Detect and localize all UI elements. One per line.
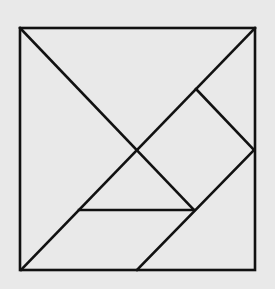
tangram-lines	[20, 28, 255, 270]
tangram-diagram	[0, 0, 275, 289]
square-right-edge	[196, 89, 254, 150]
